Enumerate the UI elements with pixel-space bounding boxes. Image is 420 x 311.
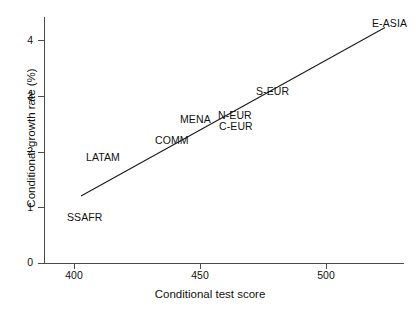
x-tick-label-450: 450 — [191, 270, 209, 281]
x-axis-line — [44, 263, 404, 264]
x-axis-title: Conditional test score — [0, 288, 420, 300]
x-tick-label-400: 400 — [65, 270, 83, 281]
point-label-comm: COMM — [155, 135, 189, 146]
y-tick-3 — [38, 96, 44, 97]
x-tick-450 — [200, 263, 201, 269]
point-label-latam: LATAM — [86, 152, 120, 163]
point-label-c-eur: C-EUR — [219, 121, 253, 132]
point-label-ssafr: SSAFR — [67, 212, 103, 223]
x-tick-400 — [74, 263, 75, 269]
y-axis-title: Conditional growth rate (%) — [25, 13, 37, 263]
scatter-chart: 4 3 2 1 0 400 450 500 Conditional test s… — [0, 0, 420, 311]
regression-line — [81, 28, 385, 197]
y-tick-0 — [38, 263, 44, 264]
plot-area: E-ASIA S-EUR N-EUR C-EUR MENA COMM LATAM… — [0, 0, 420, 311]
x-tick-label-500: 500 — [317, 270, 335, 281]
point-label-s-eur: S-EUR — [256, 86, 289, 97]
y-tick-4 — [38, 40, 44, 41]
point-label-e-asia: E-ASIA — [372, 18, 407, 29]
point-label-n-eur: N-EUR — [218, 110, 252, 121]
regression-line-svg — [0, 0, 420, 311]
point-label-mena: MENA — [180, 114, 211, 125]
y-tick-2 — [38, 152, 44, 153]
x-tick-500 — [326, 263, 327, 269]
y-axis-line — [44, 17, 45, 263]
y-tick-1 — [38, 207, 44, 208]
